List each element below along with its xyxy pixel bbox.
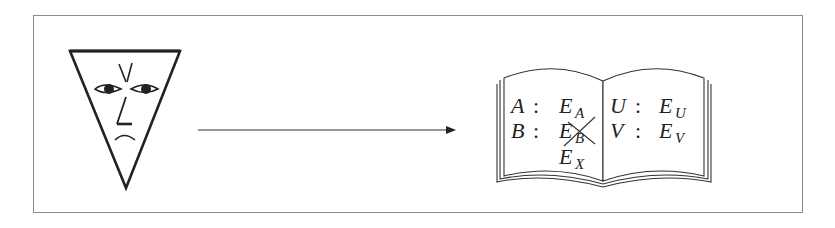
svg-text:A: A bbox=[574, 105, 585, 121]
svg-text:E: E bbox=[658, 118, 673, 143]
open-book-icon bbox=[497, 69, 711, 187]
svg-text::: : bbox=[533, 93, 539, 118]
svg-text:X: X bbox=[574, 156, 585, 172]
svg-text:E: E bbox=[558, 93, 573, 118]
svg-text:E: E bbox=[558, 144, 573, 169]
svg-text:B: B bbox=[511, 118, 524, 143]
svg-text:U: U bbox=[675, 105, 687, 121]
svg-text:B: B bbox=[575, 130, 584, 146]
svg-text::: : bbox=[635, 118, 641, 143]
svg-text::: : bbox=[533, 118, 539, 143]
diagram-canvas: A : E A B : E B E X U : E U V : E bbox=[0, 0, 835, 228]
svg-text:E: E bbox=[658, 93, 673, 118]
svg-text:A: A bbox=[509, 93, 525, 118]
svg-text::: : bbox=[635, 93, 641, 118]
svg-text:U: U bbox=[610, 93, 628, 118]
arrow-right-icon bbox=[198, 126, 456, 134]
frowning-face-icon bbox=[70, 51, 180, 188]
